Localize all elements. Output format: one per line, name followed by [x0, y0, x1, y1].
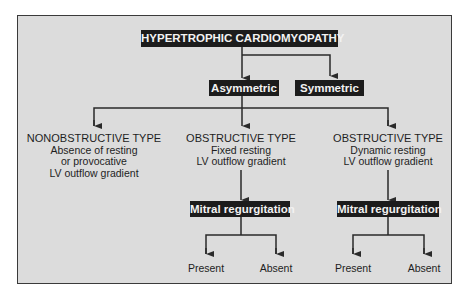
type-line: or provocative — [24, 156, 164, 168]
type-heading: OBSTRUCTIVE TYPE — [171, 133, 311, 145]
symmetric-box: Symmetric — [295, 80, 364, 96]
type-line: LV outflow gradient — [318, 156, 458, 168]
obstructive-dynamic-type: OBSTRUCTIVE TYPE Dynamic resting LV outf… — [318, 133, 458, 168]
type-heading: NONOBSTRUCTIVE TYPE — [24, 133, 164, 145]
nonobstructive-type: NONOBSTRUCTIVE TYPE Absence of resting o… — [24, 133, 164, 179]
type-heading: OBSTRUCTIVE TYPE — [318, 133, 458, 145]
type-line: LV outflow gradient — [171, 156, 311, 168]
mitral-box-fixed: Mitral regurgitation — [190, 201, 290, 217]
outcome-present: Present — [333, 263, 373, 275]
title-box: HYPERTROPHIC CARDIOMYOPATHY — [141, 30, 338, 47]
outcome-present: Present — [186, 263, 226, 275]
mitral-box-dynamic: Mitral regurgitation — [337, 201, 439, 217]
obstructive-fixed-type: OBSTRUCTIVE TYPE Fixed resting LV outflo… — [171, 133, 311, 168]
outcome-absent: Absent — [404, 263, 444, 275]
outcome-absent: Absent — [256, 263, 296, 275]
asymmetric-box: Asymmetric — [209, 80, 279, 96]
type-line: LV outflow gradient — [24, 168, 164, 180]
